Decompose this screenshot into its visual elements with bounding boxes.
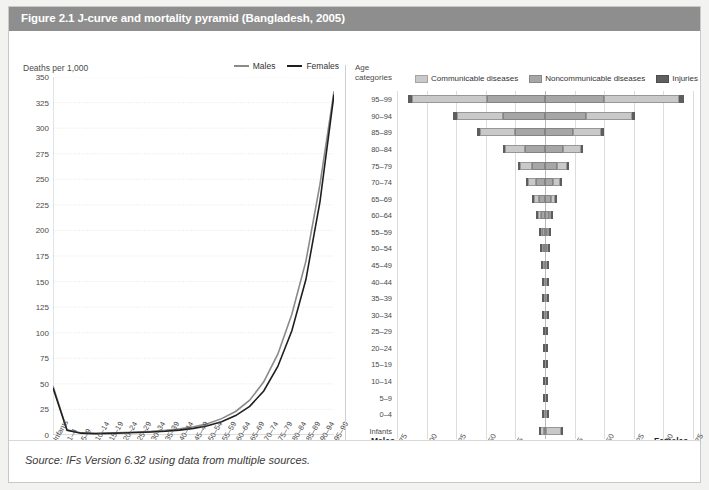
- bar-male-communicable: [528, 178, 535, 186]
- legend-label-males: Males: [253, 61, 276, 71]
- bar-female-injuries: [546, 344, 548, 352]
- pyramid-row: 40–44: [397, 278, 693, 286]
- bar-male-noncommunicable: [487, 95, 545, 103]
- plot-area: Deaths per 1,000 Males Females 350325300…: [9, 31, 700, 441]
- pyramid-row-label: 40–44: [371, 277, 392, 286]
- legend-item-females: Females: [287, 61, 339, 71]
- bar-female-noncommunicable: [545, 145, 563, 153]
- bar-female-injuries: [547, 410, 549, 418]
- jcurve-y-tick: 125: [36, 303, 49, 312]
- bar-female-injuries: [548, 244, 550, 252]
- bar-female-injuries: [581, 145, 583, 153]
- pyramid-row-label: 5–9: [379, 393, 392, 402]
- bar-male-communicable: [520, 162, 532, 170]
- bar-female-injuries: [549, 228, 551, 236]
- pyramid-row-label: 50–54: [371, 244, 392, 253]
- legend-swatch-noncommunicable: [529, 75, 542, 83]
- page-title: Figure 2.1 J-curve and mortality pyramid…: [21, 12, 345, 24]
- bar-female-injuries: [546, 377, 548, 385]
- jcurve-legend: Males Females: [234, 61, 339, 71]
- legend-label-females: Females: [306, 61, 339, 71]
- bar-female-noncommunicable: [545, 178, 553, 186]
- jcurve-y-tick: 0: [45, 431, 49, 440]
- bar-male-injuries: [542, 278, 544, 286]
- pyramid-row: 80–84: [397, 145, 693, 153]
- bar-male-noncommunicable: [532, 162, 545, 170]
- pyramid-row-label: 35–39: [371, 294, 392, 303]
- jcurve-plot: 3503253002752502252001751501251007550250…: [53, 77, 334, 435]
- jcurve-y-axis-title: Deaths per 1,000: [23, 63, 88, 73]
- pyramid-row-label: 15–19: [371, 360, 392, 369]
- bar-female-communicable: [553, 178, 560, 186]
- legend-label-injuries: Injuries: [672, 74, 698, 83]
- bar-male-noncommunicable: [525, 145, 545, 153]
- bar-female-communicable: [546, 427, 561, 435]
- bar-male-noncommunicable: [515, 128, 545, 136]
- pyramid-y-axis-title: Age categories: [355, 63, 392, 82]
- age-header-line2: categories: [355, 73, 392, 83]
- bar-male-injuries: [540, 244, 542, 252]
- jcurve-y-tick: 200: [36, 226, 49, 235]
- legend-swatch-females: [287, 65, 302, 68]
- figure-frame: Figure 2.1 J-curve and mortality pyramid…: [8, 6, 701, 483]
- jcurve-y-tick: 225: [36, 200, 49, 209]
- bar-female-communicable: [573, 128, 601, 136]
- pyramid-row-label: 95–99: [371, 95, 392, 104]
- bar-male-injuries: [542, 294, 544, 302]
- source-bar: Source: IFs Version 6.32 using data from…: [9, 440, 700, 482]
- legend-swatch-injuries: [656, 75, 669, 83]
- bar-female-injuries: [546, 360, 548, 368]
- bar-female-injuries: [567, 162, 569, 170]
- jcurve-y-tick: 75: [40, 354, 49, 363]
- pyramid-row: 60–64: [397, 211, 693, 219]
- bar-male-injuries: [526, 178, 528, 186]
- pyramid-row-label: 65–69: [371, 194, 392, 203]
- jcurve-series-males: [53, 91, 334, 433]
- bar-male-injuries: [518, 162, 520, 170]
- bar-male-communicable: [412, 95, 486, 103]
- jcurve-y-tick: 100: [36, 328, 49, 337]
- jcurve-y-tick: 150: [36, 277, 49, 286]
- pyramid-row: 70–74: [397, 178, 693, 186]
- pyramid-row-label: 90–94: [371, 111, 392, 120]
- bar-male-noncommunicable: [536, 178, 545, 186]
- bar-female-injuries: [560, 178, 562, 186]
- pyramid-row: 85–89: [397, 128, 693, 136]
- bar-male-communicable: [480, 128, 515, 136]
- legend-swatch-communicable: [415, 75, 428, 83]
- pyramid-legend: Communicable diseases Noncommunicable di…: [415, 74, 698, 83]
- bar-male-injuries: [541, 261, 543, 269]
- pyramid-row: 75–79: [397, 162, 693, 170]
- pyramid-row: 30–34: [397, 311, 693, 319]
- legend-label-noncommunicable: Noncommunicable diseases: [545, 74, 645, 83]
- pyramid-row-label: 70–74: [371, 178, 392, 187]
- age-header-line1: Age: [355, 63, 392, 73]
- bar-male-communicable: [505, 145, 525, 153]
- bar-female-injuries: [546, 327, 548, 335]
- pyramid-row-label: 10–14: [371, 377, 392, 386]
- pyramid-plot: 95–9990–9485–8980–8475–7970–7465–6960–64…: [397, 91, 693, 439]
- jcurve-panel: Deaths per 1,000 Males Females 350325300…: [9, 55, 345, 465]
- bar-male-injuries: [453, 112, 457, 120]
- bar-female-injuries: [546, 394, 548, 402]
- pyramid-row-label: 60–64: [371, 211, 392, 220]
- pyramid-row: 50–54: [397, 244, 693, 252]
- pyramid-row: 95–99: [397, 95, 693, 103]
- bar-male-communicable: [534, 195, 539, 203]
- bar-female-injuries: [601, 128, 604, 136]
- bar-female-noncommunicable: [545, 112, 586, 120]
- bar-female-communicable: [586, 112, 632, 120]
- bar-male-injuries: [408, 95, 413, 103]
- pyramid-row: 90–94: [397, 112, 693, 120]
- bar-male-noncommunicable: [503, 112, 545, 120]
- figure-title-bar: Figure 2.1 J-curve and mortality pyramid…: [9, 7, 700, 31]
- figure-screenshot: Figure 2.1 J-curve and mortality pyramid…: [0, 0, 709, 490]
- source-note: Source: IFs Version 6.32 using data from…: [25, 454, 310, 466]
- bar-female-injuries: [632, 112, 636, 120]
- pyramid-row: Infants: [397, 427, 693, 435]
- pyramid-panel: Age categories Communicable diseases Non…: [345, 55, 702, 465]
- bar-female-communicable: [563, 145, 580, 153]
- jcurve-y-tick: 50: [40, 379, 49, 388]
- bar-male-injuries: [539, 427, 541, 435]
- legend-item-noncommunicable: Noncommunicable diseases: [529, 74, 645, 83]
